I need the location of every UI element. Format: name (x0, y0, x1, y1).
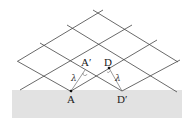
label-A-prime: A′ (81, 56, 91, 68)
reflection-diagram: A A′ D D′ λ λ (0, 0, 192, 126)
label-D: D (104, 56, 112, 68)
label-lambda-right: λ (114, 73, 121, 83)
point-A (70, 90, 73, 93)
label-D-prime: D′ (117, 93, 127, 105)
reflecting-surface (12, 90, 182, 118)
label-lambda-left: λ (70, 73, 77, 83)
wavefront-line-rising-1 (18, 10, 103, 61)
label-A: A (67, 93, 75, 105)
wavefront-line-rising-4 (122, 60, 180, 91)
wavefront-line-falling-4 (93, 10, 178, 62)
right-angle-mark-right (107, 71, 110, 72)
right-angle-mark-left (83, 73, 87, 76)
